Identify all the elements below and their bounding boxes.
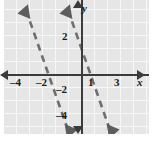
plot-area bbox=[4, 0, 149, 134]
y-axis bbox=[81, 0, 83, 134]
dashed-line-2 bbox=[68, 10, 111, 133]
x-tick-label-neg2: –2 bbox=[36, 77, 47, 88]
x-axis bbox=[4, 74, 149, 76]
x-axis-name: x bbox=[137, 77, 143, 88]
y-tick-label-neg2: –2 bbox=[56, 84, 67, 95]
y-tick-label-2: 2 bbox=[62, 31, 68, 42]
graph-figure: –4 –2 1 3 x 2 –2 –4 y bbox=[0, 0, 152, 146]
x-tick-label-neg4: –4 bbox=[10, 77, 21, 88]
arrowhead-down-line-2 bbox=[102, 124, 119, 134]
y-axis-name: y bbox=[82, 3, 87, 14]
y-tick-label-neg4: –4 bbox=[56, 110, 67, 121]
y-axis-arrow-down-icon bbox=[73, 126, 83, 134]
series-layer bbox=[4, 0, 149, 134]
series-line-2 bbox=[59, 2, 120, 134]
x-axis-arrow-left-icon bbox=[0, 70, 8, 80]
series-line-1 bbox=[17, 2, 78, 134]
x-tick-label-1: 1 bbox=[88, 77, 94, 88]
arrowhead-up-line-1 bbox=[17, 2, 34, 19]
x-tick-label-3: 3 bbox=[114, 77, 120, 88]
